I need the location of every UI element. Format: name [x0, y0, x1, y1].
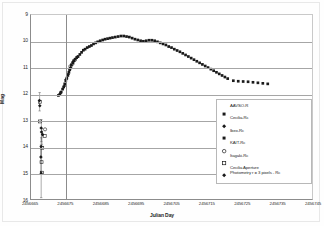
- legend-item[interactable]: Ibex-Rc: [221, 129, 308, 136]
- data-point: [40, 161, 43, 164]
- light-curve-chart: 910111213141516 Mag 24566652456675245668…: [0, 0, 324, 226]
- data-point: [201, 63, 204, 66]
- horizontal-gridline: [31, 95, 312, 96]
- legend-item[interactable]: Itagaki-Rc: [221, 154, 308, 161]
- y-axis-title: Mag: [0, 84, 5, 114]
- data-point: [247, 80, 250, 83]
- data-point: [257, 81, 260, 84]
- data-point: [117, 35, 120, 38]
- legend-item-label: Ibex-Rc: [230, 129, 244, 134]
- data-point: [165, 44, 168, 47]
- data-point: [120, 35, 123, 38]
- legend-item[interactable]: KAIT-Rc: [221, 141, 308, 148]
- x-tick-label: 2456685: [81, 202, 121, 206]
- data-point: [162, 43, 165, 46]
- legend-item-label: AAVSO-R: [230, 104, 248, 109]
- data-series: [38, 100, 46, 174]
- data-point: [226, 77, 229, 80]
- data-point: [125, 35, 128, 38]
- horizontal-gridline: [31, 42, 312, 43]
- data-point: [39, 155, 43, 159]
- data-point: [122, 35, 125, 38]
- data-point: [190, 57, 193, 60]
- legend-marker-icon: [221, 104, 228, 111]
- x-tick-label: 2456665: [10, 202, 50, 206]
- legend-marker-icon: [221, 116, 228, 123]
- data-point: [215, 71, 218, 74]
- data-point: [104, 38, 107, 41]
- y-tick-label: 11: [23, 65, 28, 70]
- data-point: [221, 74, 224, 77]
- legend-marker-icon: [221, 153, 228, 160]
- data-point: [131, 37, 134, 40]
- data-point: [195, 60, 198, 63]
- data-point: [184, 54, 187, 57]
- data-point: [38, 104, 42, 108]
- legend-item-label: Cecilia Aperture Photometry r = 3 pixels…: [230, 166, 280, 176]
- data-point: [176, 49, 179, 52]
- data-point: [39, 126, 43, 130]
- y-tick-label: 12: [23, 91, 28, 96]
- data-series: [58, 35, 269, 96]
- data-point: [232, 79, 235, 82]
- data-point: [181, 52, 184, 55]
- data-point: [266, 83, 269, 86]
- y-tick-label: 15: [23, 171, 28, 176]
- x-tick-label: 2456745: [293, 202, 324, 206]
- data-point: [128, 36, 131, 39]
- y-tick-label: 14: [23, 144, 28, 149]
- x-tick-label: 2456705: [152, 202, 192, 206]
- legend: AAVSO-RCecilia-RcIbex-RcKAIT-RcItagaki-R…: [216, 99, 312, 184]
- data-point: [179, 50, 182, 53]
- data-point: [167, 45, 170, 48]
- data-point: [212, 69, 215, 72]
- data-point: [198, 62, 201, 65]
- data-point: [111, 36, 114, 39]
- data-point: [114, 36, 117, 39]
- data-point: [193, 58, 196, 61]
- x-tick-label: 2456735: [258, 202, 298, 206]
- data-point: [170, 46, 173, 49]
- legend-item[interactable]: AAVSO-R: [221, 104, 308, 111]
- data-point: [173, 48, 176, 51]
- x-axis-title: Julian Day: [0, 212, 324, 218]
- data-point: [224, 76, 227, 79]
- legend-item[interactable]: Cecilia Aperture Photometry r = 3 pixels…: [221, 166, 308, 176]
- data-point: [252, 81, 255, 84]
- data-point: [237, 80, 240, 83]
- data-point: [261, 82, 264, 85]
- legend-marker-icon: [221, 165, 228, 172]
- horizontal-gridline: [31, 68, 312, 69]
- data-point: [204, 65, 207, 68]
- y-tick-label: 10: [23, 38, 28, 43]
- legend-marker-icon: [221, 128, 228, 135]
- x-tick-label: 2456725: [222, 202, 262, 206]
- legend-marker-icon: [221, 141, 228, 148]
- data-point: [218, 73, 221, 76]
- data-point: [242, 80, 245, 83]
- x-tick-label: 2456675: [45, 202, 85, 206]
- y-tick-label: 13: [23, 118, 28, 123]
- x-tick-label: 2456695: [116, 202, 156, 206]
- data-point: [187, 55, 190, 58]
- data-point: [134, 38, 137, 41]
- data-point: [109, 37, 112, 40]
- y-tick-label: 9: [25, 12, 28, 17]
- data-point: [43, 128, 46, 131]
- legend-item-label: Cecilia-Rc: [230, 116, 249, 121]
- legend-item-label: KAIT-Rc: [230, 141, 245, 146]
- data-point: [106, 37, 109, 40]
- vertical-gridline: [66, 15, 67, 199]
- x-tick-label: 2456715: [187, 202, 227, 206]
- legend-item[interactable]: Cecilia-Rc: [221, 116, 308, 123]
- legend-item-label: Itagaki-Rc: [230, 154, 248, 159]
